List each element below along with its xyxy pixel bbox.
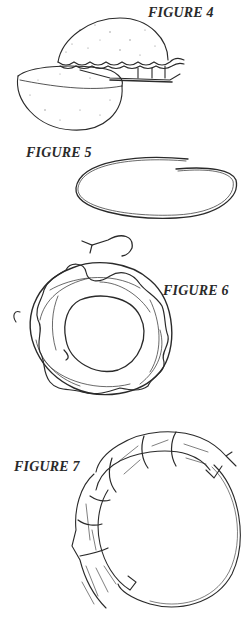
straw-bundle-ring-illustration <box>0 0 251 622</box>
